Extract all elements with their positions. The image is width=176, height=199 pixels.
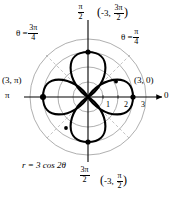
ray-label-theta-3pi-over-4: θ =3π4 <box>16 24 39 42</box>
radial-tick-label-2: 2 <box>124 101 128 109</box>
polar-graph-figure: π 2 (-3, 3π2) θ =3π4 θ =π4 (3, π) π (3, … <box>0 0 176 199</box>
axis-label-pi-over-2: π 2 <box>77 3 84 21</box>
equation-label: r = 3 cos 2θ <box>22 161 66 170</box>
radial-tick-label-3: 3 <box>141 101 145 109</box>
axis-label-pi: π <box>5 91 10 100</box>
point-label-left: (3, π) <box>2 76 22 85</box>
axis-label-3pi-over-2: 3π 2 <box>79 166 90 184</box>
axis-label-zero: 0 <box>164 91 169 100</box>
point-label-top: (-3, 3π2) <box>97 4 128 22</box>
point-label-right: (3, 0) <box>134 76 154 85</box>
point-label-bottom: (-3, π2) <box>100 172 127 190</box>
ray-label-theta-pi-over-4: θ =π4 <box>121 28 140 46</box>
radial-tick-label-1: 1 <box>106 101 110 109</box>
